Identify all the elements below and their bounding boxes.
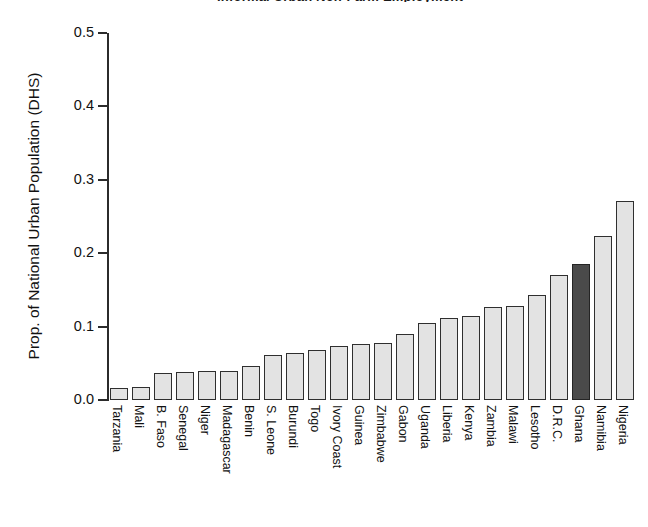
x-tick-label: Nigeria [616,405,630,445]
y-tick-mark [98,105,107,107]
bar-b-faso [154,373,172,400]
y-tick-mark [98,326,107,328]
y-tick-mark [98,32,107,34]
x-tick-label: Gabon [396,405,410,443]
x-tick-label: Malawi [506,405,520,444]
bar-zimbabwe [374,343,392,400]
bar-liberia [440,318,458,400]
bar-namibia [594,236,612,400]
x-tick-label: Namibia [594,405,608,451]
bar-niger [198,371,216,400]
y-tick-mark [98,179,107,181]
bar-benin [242,366,260,400]
y-tick-label: 0.5 [58,25,94,40]
x-tick-label: Togo [308,405,322,432]
x-tick-label: Mali [132,405,146,428]
y-axis-label: Prop. of National Urban Population (DHS) [25,26,47,406]
y-tick-label: 0.4 [58,98,94,113]
bar-mali [132,387,150,400]
x-tick-label: Zambia [484,405,498,447]
bar-gabon [396,334,414,400]
y-tick-label: 0.2 [58,245,94,260]
bar-ghana [572,264,590,400]
x-tick-label: Niger [198,405,212,435]
x-tick-label: Kenya [462,405,476,440]
x-tick-label: Zimbabwe [374,405,388,463]
bar-s-leone [264,355,282,401]
bar-uganda [418,323,436,400]
plot-area [108,33,636,400]
bar-zambia [484,307,502,400]
x-tick-label: Ghana [572,405,586,443]
bar-togo [308,350,326,400]
x-tick-label: Uganda [418,405,432,449]
x-tick-label: B. Faso [154,405,168,448]
chart-title: Informal Urban Non-Farm Employment [140,0,540,2]
x-tick-label: Tarzania [110,405,124,452]
chart-figure: Informal Urban Non-Farm Employment Prop.… [0,0,648,527]
x-tick-label: Ivory Coast [330,405,344,468]
x-tick-label: Benin [242,405,256,437]
y-tick-label: 0.3 [58,172,94,187]
bar-malawi [506,306,524,400]
x-tick-label: Guinea [352,405,366,445]
bar-burundi [286,353,304,400]
bar-kenya [462,316,480,400]
bar-ivory-coast [330,346,348,400]
bar-nigeria [616,201,634,400]
bar-senegal [176,372,194,400]
y-tick-mark [98,399,107,401]
bar-tarzania [110,388,128,400]
x-tick-label: S. Leone [264,405,278,455]
y-tick-label: 0.1 [58,319,94,334]
bar-d-r-c [550,275,568,400]
x-tick-label: D.R.C. [550,405,564,443]
bar-madagascar [220,371,238,400]
x-tick-label: Liberia [440,405,454,443]
x-tick-label: Burundi [286,405,300,448]
y-tick-label: 0.0 [58,392,94,407]
x-tick-label: Senegal [176,405,190,451]
x-tick-label: Madagascar [220,405,234,474]
bar-lesotho [528,295,546,400]
x-tick-label: Lesotho [528,405,542,449]
bar-guinea [352,344,370,400]
y-tick-mark [98,252,107,254]
